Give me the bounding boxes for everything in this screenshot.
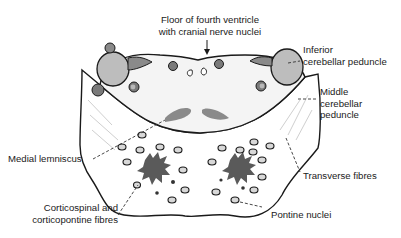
label-line: cerebellar peduncle <box>303 56 387 68</box>
nucleus-dark-right <box>215 60 224 69</box>
inferior-cerebellar-peduncle-left <box>97 52 129 86</box>
inferior-cerebellar-peduncle-right <box>271 49 303 85</box>
label-line: corticopontine fibres <box>20 214 118 226</box>
label-middle-cerebellar-peduncle: Middle cerebellar peduncle <box>320 86 362 121</box>
label-line: with cranial nerve nuclei <box>145 26 275 38</box>
label-line: Middle <box>320 86 362 98</box>
label-corticospinal-fibres: Corticospinal and corticopontine fibres <box>20 202 118 225</box>
pons-section-diagram: Floor of fourth ventricle with cranial n… <box>0 0 401 238</box>
label-pontine-nuclei: Pontine nuclei <box>271 209 331 221</box>
label-transverse-fibres: Transverse fibres <box>303 170 377 182</box>
label-line: peduncle <box>320 109 362 121</box>
label-line: Corticospinal and <box>20 202 118 214</box>
label-line: Inferior <box>303 44 387 56</box>
label-floor-fourth-ventricle: Floor of fourth ventricle with cranial n… <box>145 14 275 37</box>
nucleus-dark-left <box>169 62 178 71</box>
label-line: cerebellar <box>320 98 362 110</box>
arrow-icon <box>204 49 210 55</box>
label-inferior-cerebellar-peduncle: Inferior cerebellar peduncle <box>303 44 387 67</box>
label-line: Floor of fourth ventricle <box>145 14 275 26</box>
label-medial-lemniscus: Medial lemniscus <box>8 153 82 165</box>
